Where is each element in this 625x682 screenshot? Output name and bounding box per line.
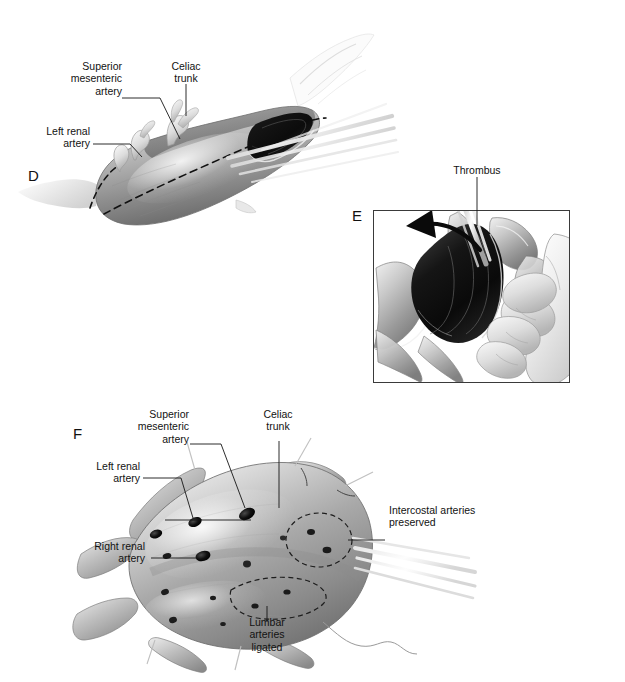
label-lumbar-arteries-ligated-f: Lumbar arteries ligated — [227, 616, 307, 653]
label-intercostal-arteries-preserved-f: Intercostal arteries preserved — [389, 504, 514, 529]
figure-root: D Superior mesenteric artery Celiac trun… — [0, 0, 625, 682]
label-celiac-trunk-f: Celiac trunk — [247, 408, 309, 433]
label-superior-mesenteric-artery-f: Superior mesenteric artery — [107, 408, 189, 445]
label-left-renal-artery-f: Left renal artery — [65, 460, 140, 485]
panel-e-illustration — [340, 160, 625, 400]
label-right-renal-artery-f: Right renal artery — [57, 540, 145, 565]
panel-d-letter: D — [28, 168, 39, 183]
panel-e: E Thrombus — [340, 160, 625, 400]
label-celiac-trunk-d: Celiac trunk — [155, 60, 217, 85]
label-superior-mesenteric-artery-d: Superior mesenteric artery — [40, 60, 122, 97]
label-left-renal-artery-d: Left renal artery — [16, 125, 90, 150]
label-thrombus-e: Thrombus — [442, 164, 512, 176]
panel-f-letter: F — [73, 426, 82, 441]
panel-f: F Superior mesenteric artery Celiac trun… — [55, 408, 515, 682]
panel-e-letter: E — [352, 208, 362, 223]
